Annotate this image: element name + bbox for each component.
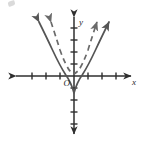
parabola-figure: O x y xyxy=(0,0,147,142)
coordinate-plane-svg: O x y xyxy=(0,0,147,142)
x-axis-label: x xyxy=(131,77,136,87)
origin-label: O xyxy=(64,78,71,88)
y-axis-label: y xyxy=(78,17,83,27)
